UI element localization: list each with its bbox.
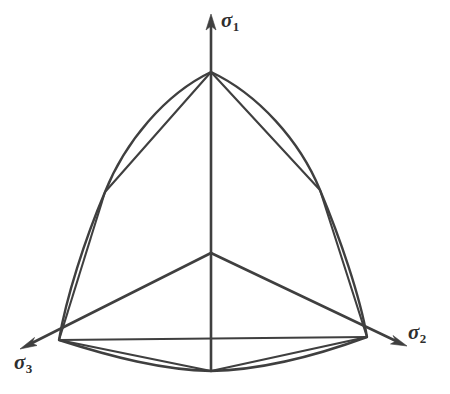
stress-axes xyxy=(20,14,407,371)
pi-plane-figure: σ1 σ2 σ3 xyxy=(0,0,450,394)
sigma3-subscript: 3 xyxy=(26,361,33,376)
sigma2-symbol: σ xyxy=(408,320,419,344)
hexagon-edge-bottomcenter-bottomleft xyxy=(59,340,211,371)
pi-plane-diagram xyxy=(0,0,450,394)
sigma1-subscript: 1 xyxy=(233,19,240,34)
sigma1-symbol: σ xyxy=(221,8,232,32)
sigma3-axis-label: σ3 xyxy=(14,352,32,375)
sigma1-axis-label: σ1 xyxy=(221,10,239,33)
sigma3-symbol: σ xyxy=(14,350,25,374)
sigma2-subscript: 2 xyxy=(420,331,427,346)
sigma2-axis-line xyxy=(211,253,396,341)
sigma3-arrow-head xyxy=(20,338,37,350)
inner-hexagon xyxy=(59,72,367,371)
outer-yield-curve xyxy=(59,72,367,371)
hexagon-edge-left-apex xyxy=(105,72,211,192)
sigma3-axis-line xyxy=(32,253,211,343)
hexagon-edge-bottomright-bottomcenter xyxy=(211,337,367,371)
hexagon-chord-bottom xyxy=(59,337,367,340)
sigma2-axis-label: σ2 xyxy=(408,322,426,345)
hexagon-edge-apex-right xyxy=(211,72,320,190)
